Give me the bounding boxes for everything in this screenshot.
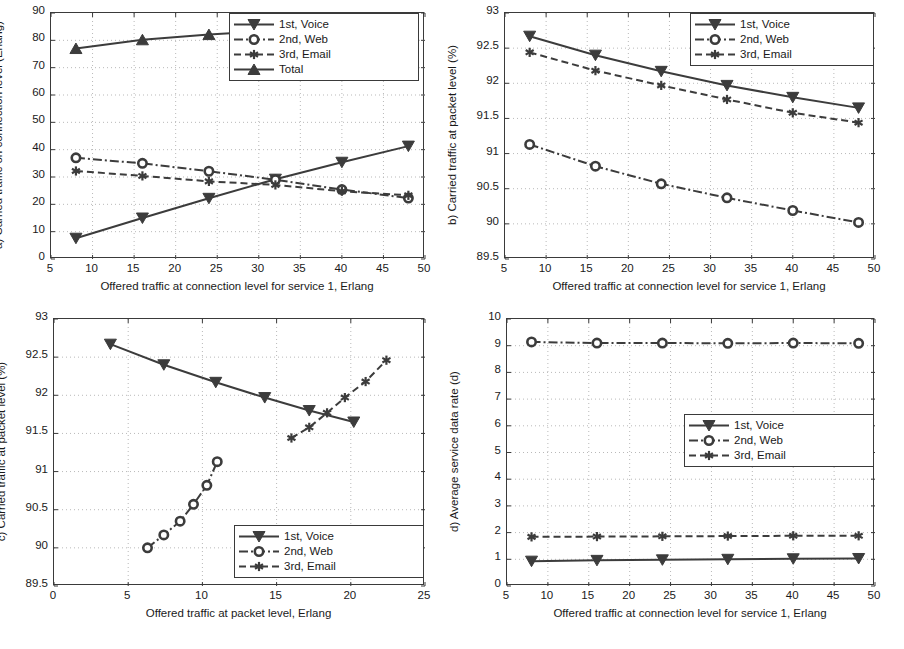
data-point-marker [705,436,713,444]
y-tick-label: 3 [458,497,501,509]
series-line [532,342,859,343]
legend-line-sample [688,448,730,463]
data-point-marker [789,339,797,347]
y-tick-label: 4 [458,470,501,482]
x-tick-label: 20 [609,589,649,601]
panel-d: 0123456789105101520253035404550Offered t… [0,0,904,649]
x-tick-label: 35 [731,589,771,601]
legend-label: 2nd, Web [730,433,783,448]
x-axis-label: Offered traffic at connection level for … [466,607,904,619]
x-tick-label: 40 [772,589,812,601]
x-tick-label: 10 [527,589,567,601]
legend-line-sample [688,433,730,448]
figure-canvas: 01020304050607080905101520253035404550Of… [0,0,904,649]
x-tick-label: 25 [650,589,690,601]
data-point-marker [527,338,535,346]
y-axis-label: d) Average service data rate (d) [448,318,460,585]
legend-swatch [688,418,730,433]
legend-label: 3rd, Email [730,448,786,463]
x-tick-label: 30 [690,589,730,601]
y-tick-label: 0 [458,577,501,589]
data-point-marker [658,339,666,347]
y-tick-label: 8 [458,363,501,375]
x-tick-label: 45 [813,589,853,601]
y-tick-label: 10 [458,310,501,322]
legend-item[interactable]: 3rd, Email [688,448,869,463]
legend-line-sample [688,418,730,433]
legend[interactable]: 1st, Voice2nd, Web3rd, Email [684,414,874,467]
legend-item[interactable]: 2nd, Web [688,433,869,448]
x-tick-label: 15 [568,589,608,601]
data-point-marker [854,339,862,347]
series-line [532,536,859,537]
legend-swatch [688,433,730,448]
series-line [532,558,859,561]
y-tick-label: 1 [458,550,501,562]
legend-item[interactable]: 1st, Voice [688,418,869,433]
y-tick-label: 6 [458,417,501,429]
legend-swatch [688,448,730,463]
y-tick-label: 2 [458,524,501,536]
y-tick-label: 9 [458,337,501,349]
x-tick-label: 50 [854,589,894,601]
y-tick-label: 7 [458,390,501,402]
legend-label: 1st, Voice [730,418,784,433]
y-tick-label: 5 [458,444,501,456]
data-point-marker [724,339,732,347]
x-tick-label: 5 [486,589,526,601]
data-point-marker [593,339,601,347]
